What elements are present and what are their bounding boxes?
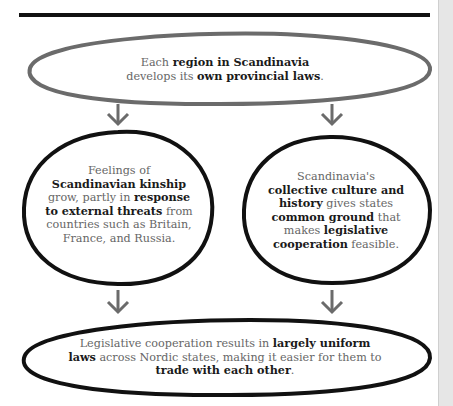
arrow-down-left-top bbox=[108, 104, 128, 124]
scrollbar[interactable] bbox=[438, 0, 453, 406]
left-node-text: Feelings of Scandinavian kinship grow, p… bbox=[40, 164, 198, 246]
arrow-down-right-top bbox=[322, 104, 342, 124]
right-node-text: Scandinavia's collective culture and his… bbox=[256, 170, 416, 252]
arrow-down-right-bottom bbox=[322, 290, 342, 312]
top-node-text: Each region in Scandinavia develops its … bbox=[90, 56, 360, 83]
bottom-node-text: Legislative cooperation results in large… bbox=[65, 337, 385, 378]
arrow-down-left-bottom bbox=[108, 290, 128, 312]
